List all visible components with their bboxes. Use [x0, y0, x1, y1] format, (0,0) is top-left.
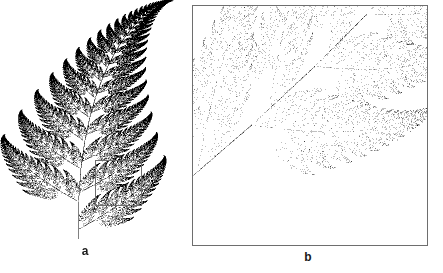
panel-a-label: a: [62, 244, 108, 258]
fern-fractal-panel-a: [0, 0, 175, 240]
panel-b: [192, 5, 428, 246]
fern-fractal-panel-b-detail: [193, 6, 427, 245]
figure-root: a b: [0, 0, 443, 273]
panel-a: [0, 0, 175, 273]
panel-b-label: b: [285, 250, 331, 264]
